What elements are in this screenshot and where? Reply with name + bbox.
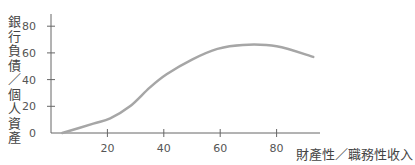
y-tick-label: 0 [29, 127, 36, 140]
svg-text:個: 個 [8, 87, 21, 102]
line-chart: 02040608020406080 銀行負債／個人資產 財產性／職務性收入 [0, 0, 415, 165]
x-axis-title: 財產性／職務性收入 [296, 147, 413, 162]
y-tick-label: 60 [22, 47, 36, 60]
y-tick-label: 80 [22, 20, 36, 33]
svg-text:銀: 銀 [8, 14, 21, 29]
svg-text:負: 負 [8, 43, 21, 58]
svg-text:／: ／ [8, 72, 21, 87]
y-axis-title: 銀行負債／個人資產 [8, 14, 21, 145]
x-tick-label: 40 [157, 142, 171, 155]
svg-text:產: 產 [8, 130, 21, 145]
svg-text:債: 債 [8, 58, 21, 73]
y-tick-label: 40 [22, 74, 36, 87]
svg-text:資: 資 [8, 116, 21, 131]
x-tick-label: 60 [213, 142, 227, 155]
svg-text:人: 人 [8, 101, 21, 116]
axes: 02040608020406080 [22, 14, 320, 155]
x-tick-label: 20 [100, 142, 114, 155]
svg-text:行: 行 [8, 29, 21, 44]
x-tick-label: 80 [270, 142, 284, 155]
y-tick-label: 20 [22, 100, 36, 113]
data-line [62, 45, 313, 133]
